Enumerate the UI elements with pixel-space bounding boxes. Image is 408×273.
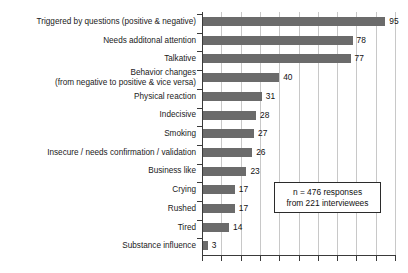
gridline	[376, 12, 377, 255]
x-axis-tick	[337, 256, 338, 261]
bar	[202, 111, 256, 120]
y-axis-tick	[197, 220, 202, 221]
category-label-line: Indecisive	[0, 110, 196, 119]
category-label-line: Needs additonal attention	[0, 36, 196, 45]
category-label-line: Behavior changes	[0, 68, 196, 77]
category-label: Insecure / needs confirmation / validati…	[0, 148, 196, 157]
category-label-line: Smoking	[0, 129, 196, 138]
y-axis-tick	[197, 145, 202, 146]
bar	[202, 17, 385, 26]
category-label-line: Business like	[0, 166, 196, 175]
y-axis-tick	[197, 70, 202, 71]
category-label: Tired	[0, 223, 196, 232]
bar-value-label: 40	[283, 73, 292, 82]
category-label-line: Triggered by questions (positive & negat…	[0, 17, 196, 26]
bar-value-label: 27	[258, 129, 267, 138]
category-label: Crying	[0, 185, 196, 194]
bar	[202, 185, 235, 194]
y-axis-tick	[197, 51, 202, 52]
x-axis-tick	[221, 256, 222, 261]
bar	[202, 223, 229, 232]
category-label-line: Rushed	[0, 204, 196, 213]
sample-size-annotation: n = 476 responses from 221 interviewees	[274, 182, 381, 213]
category-label-line: Insecure / needs confirmation / validati…	[0, 148, 196, 157]
category-label: Behavior changes(from negative to positi…	[0, 68, 196, 87]
bar-value-label: 28	[260, 111, 269, 120]
y-axis-tick	[197, 238, 202, 239]
category-label: Rushed	[0, 204, 196, 213]
bar-value-label: 23	[250, 167, 259, 176]
category-label: Indecisive	[0, 110, 196, 119]
bar-value-label: 14	[233, 223, 242, 232]
bar-value-label: 26	[256, 148, 265, 157]
bar	[202, 148, 252, 157]
bar-value-label: 31	[266, 92, 275, 101]
y-axis-tick	[197, 33, 202, 34]
bar-value-label: 17	[239, 185, 248, 194]
category-axis-labels: Triggered by questions (positive & negat…	[0, 12, 196, 255]
y-axis-tick	[197, 14, 202, 15]
gridline	[395, 12, 396, 255]
category-label: Smoking	[0, 129, 196, 138]
category-label: Triggered by questions (positive & negat…	[0, 17, 196, 26]
x-axis-tick	[376, 256, 377, 261]
gridline	[279, 12, 280, 255]
bar	[202, 54, 351, 63]
category-label: Needs additonal attention	[0, 36, 196, 45]
bar-value-label: 3	[212, 241, 217, 250]
bar	[202, 167, 246, 176]
annotation-line-2: from 221 interviewees	[287, 198, 369, 209]
y-axis-tick	[197, 89, 202, 90]
y-axis-tick	[197, 201, 202, 202]
category-label-line: Crying	[0, 185, 196, 194]
bar	[202, 204, 235, 213]
category-label-line: Talkative	[0, 54, 196, 63]
x-axis-tick	[356, 256, 357, 261]
category-label: Substance influence	[0, 241, 196, 250]
bar-value-label: 17	[239, 204, 248, 213]
x-axis-tick	[279, 256, 280, 261]
category-label: Talkative	[0, 54, 196, 63]
x-axis-tick	[395, 256, 396, 261]
plot-area: 9578774031282726231717143	[202, 12, 395, 255]
horizontal-bar-chart: Triggered by questions (positive & negat…	[0, 0, 408, 273]
x-axis-tick	[260, 256, 261, 261]
y-axis-tick	[197, 164, 202, 165]
bar	[202, 36, 353, 45]
category-label: Business like	[0, 166, 196, 175]
y-axis-tick	[197, 108, 202, 109]
bar	[202, 92, 262, 101]
gridline	[318, 12, 319, 255]
bar-value-label: 78	[357, 36, 366, 45]
bar-value-label: 77	[355, 54, 364, 63]
y-axis-tick	[197, 182, 202, 183]
x-axis-tick	[318, 256, 319, 261]
annotation-line-1: n = 476 responses	[293, 187, 362, 198]
y-axis-line	[202, 12, 203, 256]
y-axis-tick	[197, 126, 202, 127]
gridline	[356, 12, 357, 255]
category-label: Physical reaction	[0, 92, 196, 101]
bar	[202, 129, 254, 138]
category-label-line: Physical reaction	[0, 92, 196, 101]
gridline	[337, 12, 338, 255]
category-label-line: Tired	[0, 223, 196, 232]
x-axis-tick	[202, 256, 203, 261]
gridline	[299, 12, 300, 255]
x-axis-tick	[299, 256, 300, 261]
category-label-line: (from negative to positive & vice versa)	[0, 78, 196, 87]
category-label-line: Substance influence	[0, 241, 196, 250]
x-axis-tick	[241, 256, 242, 261]
bar-value-label: 95	[389, 17, 398, 26]
bar	[202, 73, 279, 82]
